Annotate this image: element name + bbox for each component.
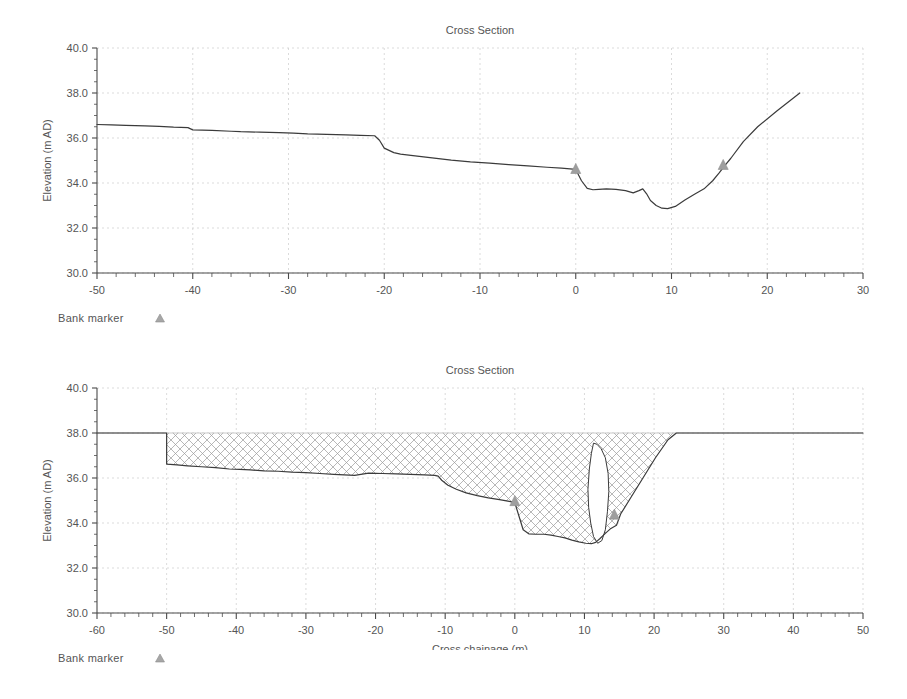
y-tick-label: 32.0 [67, 562, 88, 574]
x-axis-title: Cross chainage (m) [432, 643, 528, 650]
y-tick-label: 30.0 [67, 607, 88, 619]
y-axis-title: Elevation (m AD) [41, 459, 53, 542]
chart-title: Cross Section [446, 364, 514, 376]
y-tick-label: 34.0 [67, 517, 88, 529]
x-tick-label: 40 [787, 624, 799, 636]
y-tick-label: 30.0 [67, 267, 88, 279]
x-tick-label: -10 [437, 624, 453, 636]
x-tick-label: 0 [573, 284, 579, 296]
x-tick-label: -10 [472, 284, 488, 296]
y-tick-label: 40.0 [67, 382, 88, 394]
x-tick-label: 20 [761, 284, 773, 296]
series-line-0 [97, 93, 800, 209]
y-tick-label: 34.0 [67, 177, 88, 189]
x-tick-label: 50 [857, 624, 869, 636]
y-tick-label: 36.0 [67, 132, 88, 144]
legend-top: Bank marker [58, 312, 166, 324]
x-tick-label: -60 [89, 624, 105, 636]
y-tick-label: 36.0 [67, 472, 88, 484]
chart-panel-top: 30.032.034.036.038.040.0-50-40-30-20-100… [0, 0, 907, 350]
legend-label-bank-marker: Bank marker [58, 312, 124, 324]
y-tick-label: 38.0 [67, 427, 88, 439]
y-tick-label: 32.0 [67, 222, 88, 234]
plot-area [97, 48, 863, 273]
x-tick-label: -20 [376, 284, 392, 296]
legend-label-bank-marker: Bank marker [58, 652, 124, 664]
cross-section-chart-bottom: 30.032.034.036.038.040.0-60-50-40-30-20-… [0, 350, 907, 650]
y-tick-label: 40.0 [67, 42, 88, 54]
triangle-marker-icon [154, 312, 166, 324]
bank-marker-right [718, 159, 728, 169]
plot-area [97, 388, 863, 613]
y-tick-label: 38.0 [67, 87, 88, 99]
x-tick-label: 30 [857, 284, 869, 296]
x-tick-label: -20 [368, 624, 384, 636]
x-tick-label: -50 [89, 284, 105, 296]
chart-panel-bottom: 30.032.034.036.038.040.0-60-50-40-30-20-… [0, 350, 907, 699]
axes: 30.032.034.036.038.040.0-50-40-30-20-100… [67, 42, 870, 296]
x-tick-label: 30 [718, 624, 730, 636]
triangle-marker-icon [154, 652, 166, 664]
cross-section-chart-top: 30.032.034.036.038.040.0-50-40-30-20-100… [0, 0, 907, 300]
x-tick-label: 10 [578, 624, 590, 636]
y-axis-title: Elevation (m AD) [41, 119, 53, 202]
x-tick-label: 0 [512, 624, 518, 636]
legend-bottom: Bank marker [58, 652, 166, 664]
chart-title: Cross Section [446, 24, 514, 36]
cross-section-report-page: 30.032.034.036.038.040.0-50-40-30-20-100… [0, 0, 907, 699]
gridlines [97, 388, 863, 613]
x-tick-label: -50 [159, 624, 175, 636]
x-tick-label: 20 [648, 624, 660, 636]
x-tick-label: -30 [281, 284, 297, 296]
x-tick-label: 10 [665, 284, 677, 296]
x-tick-label: -30 [298, 624, 314, 636]
axes: 30.032.034.036.038.040.0-60-50-40-30-20-… [67, 382, 870, 636]
x-tick-label: -40 [185, 284, 201, 296]
x-tick-label: -40 [228, 624, 244, 636]
gridlines [97, 48, 863, 273]
